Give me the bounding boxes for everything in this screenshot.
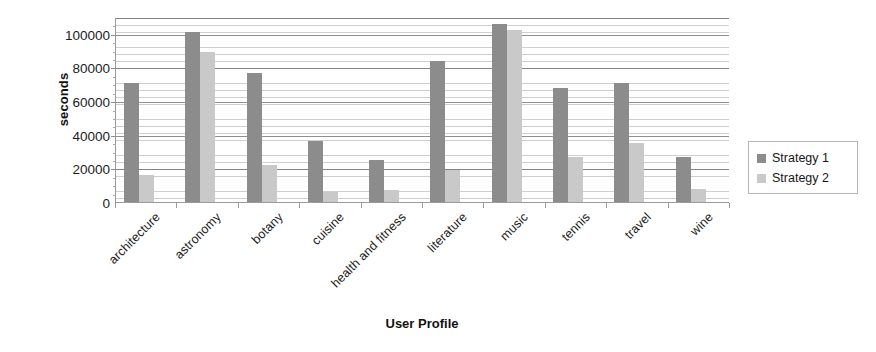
bar-strategy-2 [445, 170, 460, 202]
bar-strategy-1 [369, 160, 384, 202]
bar-strategy-1 [247, 73, 262, 203]
bar-strategy-1 [553, 88, 568, 202]
legend-swatch-icon [757, 174, 766, 183]
bar-strategy-2 [568, 157, 583, 202]
x-axis-category-label: architecture [106, 210, 163, 267]
bar-strategy-2 [323, 192, 338, 202]
x-axis-category-label: tennis [559, 210, 593, 244]
bar-strategy-2 [507, 30, 522, 202]
x-axis-tick [729, 203, 730, 208]
bar-group [668, 18, 729, 202]
bar-group [422, 18, 483, 202]
bar-group [239, 18, 300, 202]
y-axis-tick-label: 80000 [38, 61, 110, 76]
plot-area [115, 18, 729, 203]
bar-group [484, 18, 545, 202]
bar-group [177, 18, 238, 202]
bar-strategy-1 [185, 32, 200, 202]
bar-strategy-1 [430, 61, 445, 202]
bar-strategy-2 [262, 165, 277, 202]
x-axis-category-label: literature [425, 210, 470, 255]
bar-group [361, 18, 422, 202]
bar-strategy-1 [614, 83, 629, 202]
plot-inner [116, 18, 729, 202]
bar-strategy-1 [676, 157, 691, 202]
bar-chart: seconds 020000400006000080000100000 arch… [0, 0, 876, 352]
x-axis-category-label: music [498, 210, 531, 243]
x-axis-category-label: astronomy [173, 210, 225, 262]
legend-label: Strategy 2 [772, 171, 829, 185]
x-axis-category-label: wine [687, 210, 715, 238]
legend-label: Strategy 1 [772, 151, 829, 165]
y-axis-tick-label: 20000 [38, 162, 110, 177]
legend-item[interactable]: Strategy 1 [757, 151, 849, 165]
bar-groups [116, 18, 729, 202]
y-axis-tick-label: 40000 [38, 128, 110, 143]
bar-strategy-2 [629, 143, 644, 202]
bar-group [606, 18, 667, 202]
x-axis-title: User Profile [115, 316, 729, 331]
bar-strategy-1 [492, 24, 507, 202]
bar-strategy-1 [124, 83, 139, 202]
y-axis-tick-label: 60000 [38, 95, 110, 110]
bar-group [116, 18, 177, 202]
bar-strategy-1 [308, 141, 323, 202]
y-axis-tick-label: 0 [38, 196, 110, 211]
bar-group [300, 18, 361, 202]
y-axis-tick-label: 100000 [38, 27, 110, 42]
bar-strategy-2 [384, 190, 399, 202]
x-axis-category-label: cuisine [309, 210, 347, 248]
bar-strategy-2 [139, 175, 154, 202]
x-axis-category-label: travel [622, 210, 654, 242]
x-axis-category-label: botany [249, 210, 286, 247]
x-axis-category-labels: architectureastronomybotanycuisinehealth… [115, 208, 729, 303]
legend-swatch-icon [757, 154, 766, 163]
legend-item[interactable]: Strategy 2 [757, 171, 849, 185]
bar-group [545, 18, 606, 202]
bar-strategy-2 [200, 52, 215, 202]
legend: Strategy 1Strategy 2 [748, 141, 858, 194]
y-axis-tick-labels: 020000400006000080000100000 [38, 0, 110, 352]
bar-strategy-2 [691, 189, 706, 202]
